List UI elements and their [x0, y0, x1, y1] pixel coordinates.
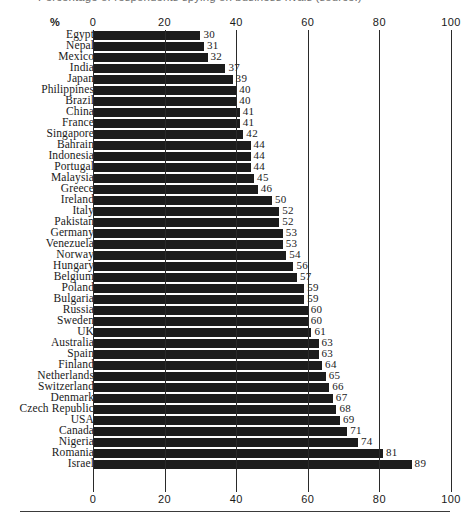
bar	[93, 64, 225, 73]
axis-tick-100: 100	[441, 493, 461, 505]
axis-tick-20: 20	[158, 16, 171, 28]
bar	[93, 306, 308, 315]
axis-unit-label: %	[50, 16, 60, 28]
bar	[93, 163, 251, 172]
bar-rows: Egypt30Nepal31Mexico32India37Japan39Phil…	[0, 30, 476, 470]
gridline-20	[165, 30, 166, 492]
axis-tick-60: 60	[301, 493, 314, 505]
bar-row: Israel89	[0, 459, 476, 470]
bar	[93, 460, 412, 469]
bar	[93, 185, 258, 194]
bar-chart: % 020406080100 Egypt30Nepal31Mexico32Ind…	[0, 0, 476, 529]
axis-tick-40: 40	[230, 493, 243, 505]
gridline-40	[236, 30, 237, 492]
axis-tick-100: 100	[441, 16, 461, 28]
bar	[93, 361, 322, 370]
bar	[93, 218, 279, 227]
axis-bottom: 020406080100	[0, 493, 476, 507]
axis-tick-80: 80	[373, 493, 386, 505]
bar	[93, 427, 347, 436]
bar	[93, 350, 319, 359]
bar	[93, 108, 240, 117]
bar	[93, 416, 340, 425]
bar	[93, 53, 208, 62]
bar	[93, 207, 279, 216]
bar	[93, 339, 319, 348]
axis-tick-60: 60	[301, 16, 314, 28]
bar	[93, 251, 286, 260]
footer-divider	[20, 511, 450, 512]
bar	[93, 405, 336, 414]
bar	[93, 31, 200, 40]
bar	[93, 240, 283, 249]
bar	[93, 141, 251, 150]
bar	[93, 262, 293, 271]
bar	[93, 383, 329, 392]
bar-value-label: 81	[386, 447, 398, 458]
gridline-100	[451, 30, 452, 492]
bar	[93, 174, 254, 183]
bar	[93, 284, 304, 293]
bar	[93, 75, 233, 84]
gridline-60	[308, 30, 309, 492]
bar	[93, 273, 297, 282]
bar-value-label: 32	[211, 51, 223, 62]
gridline-0	[93, 30, 94, 492]
bar-row: Ireland50	[0, 195, 476, 206]
bar	[93, 372, 326, 381]
bar	[93, 449, 383, 458]
bar	[93, 229, 283, 238]
bar-value-label: 89	[415, 458, 427, 469]
bar-row: Sweden60	[0, 316, 476, 327]
bar	[93, 295, 304, 304]
bar	[93, 130, 243, 139]
bar	[93, 119, 240, 128]
bar	[93, 394, 333, 403]
axis-tick-40: 40	[230, 16, 243, 28]
bar	[93, 328, 311, 337]
gridline-80	[379, 30, 380, 492]
bar-value-label: 46	[261, 183, 273, 194]
bar	[93, 42, 204, 51]
bar-value-label: 74	[361, 436, 373, 447]
axis-tick-0: 0	[90, 16, 97, 28]
bar	[93, 317, 308, 326]
bar	[93, 196, 272, 205]
axis-tick-20: 20	[158, 493, 171, 505]
bar	[93, 152, 251, 161]
axis-tick-0: 0	[90, 493, 97, 505]
axis-tick-80: 80	[373, 16, 386, 28]
category-label: Israel	[68, 458, 94, 469]
bar	[93, 438, 358, 447]
